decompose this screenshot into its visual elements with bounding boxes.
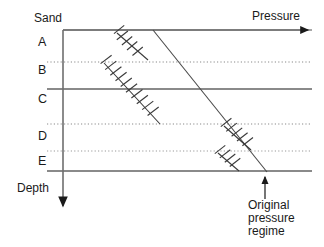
sand-label: Sand: [34, 12, 62, 25]
segment-e-tick-4: [230, 158, 241, 166]
segment-bc-tick-6: [126, 84, 137, 93]
segment-a-core: [117, 33, 148, 60]
layer-boundaries: [47, 30, 312, 171]
segment-bc-core: [104, 63, 160, 124]
segment-bc-tick-10: [148, 107, 159, 116]
layer-label-a: A: [38, 36, 46, 49]
hatched-segment-e: [215, 145, 241, 171]
segment-bc-tick-1: [101, 55, 112, 63]
depth-axis-label: Depth: [17, 182, 49, 195]
axes: [63, 30, 308, 206]
segment-bc-tick-7: [131, 90, 142, 99]
segment-a-tick-3: [122, 37, 132, 46]
segment-bc-tick-8: [137, 95, 148, 104]
layer-label-c: C: [38, 93, 47, 106]
segment-d-tick-5: [242, 138, 253, 146]
pressure-depth-diagram: Sand Pressure Depth A B C D E Original p…: [0, 0, 324, 247]
layer-label-e: E: [38, 155, 46, 168]
pressure-axis-label: Pressure: [252, 10, 300, 23]
segment-bc-tick-9: [142, 101, 153, 110]
segment-e-tick-1: [215, 145, 226, 153]
segment-e-tick-3: [225, 154, 236, 162]
layer-label-d: D: [38, 130, 47, 143]
layer-label-b: B: [38, 64, 46, 77]
segment-a-tick-2: [117, 31, 128, 40]
annotation-line-3: regime: [248, 225, 285, 238]
